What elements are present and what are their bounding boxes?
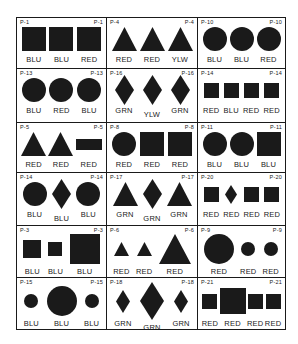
diamond-icon <box>225 185 237 204</box>
color-label: RED <box>81 55 97 64</box>
color-label: GRN <box>170 210 187 219</box>
cell-id-right: P-21 <box>270 279 282 285</box>
color-label: BLU <box>207 55 222 64</box>
shape-item: BLU <box>49 26 73 64</box>
color-label: RED <box>265 319 281 328</box>
color-label: RED <box>243 106 259 115</box>
color-label: YLW <box>172 55 188 64</box>
cell-id-left: P-14 <box>20 174 32 180</box>
shape-item: BLU <box>22 26 46 64</box>
color-label: BLU <box>234 160 249 169</box>
triangle-icon <box>114 242 129 256</box>
color-label: RED <box>136 267 152 276</box>
pattern-cell: P-3P-3BLUBLUBLU <box>17 226 107 278</box>
color-label: RED <box>243 210 259 219</box>
pattern-cell: P-11P-11BLUBLUBLU <box>198 123 285 173</box>
square-icon <box>220 288 246 314</box>
color-label: BLU <box>54 319 69 328</box>
square-icon <box>202 294 217 309</box>
color-label: RED <box>25 160 41 169</box>
square-icon <box>48 242 62 256</box>
color-label: BLU <box>207 160 222 169</box>
shape-row: REDREDRED <box>107 131 197 170</box>
cell-id-left: P-6 <box>110 227 119 233</box>
color-label: RED <box>144 55 160 64</box>
shape-item: BLU <box>230 26 254 64</box>
color-label: RED <box>263 106 279 115</box>
shape-item: RED <box>48 131 73 169</box>
shape-row: BLUBLURED <box>17 26 106 66</box>
circle-icon <box>264 242 278 256</box>
pattern-cell: P-1P-1BLUBLURED <box>17 18 107 69</box>
cell-id-right: P-4 <box>185 19 194 25</box>
cell-id-right: P-11 <box>270 124 282 130</box>
color-label: GRN <box>143 214 160 223</box>
shape-item: BLU <box>52 181 71 223</box>
pattern-cell: P-6P-6REDREDRED <box>107 226 198 278</box>
shape-item: RED <box>159 234 191 276</box>
circle-icon <box>241 242 255 256</box>
shape-row: BLUBLUBLU <box>17 181 106 223</box>
shape-item: RED <box>243 181 259 219</box>
square-icon <box>204 187 219 202</box>
color-label: BLU <box>26 106 41 115</box>
color-label: RED <box>116 55 132 64</box>
shape-item: YLW <box>168 26 193 64</box>
shape-item: RED <box>257 26 281 64</box>
pattern-cell: P-21P-21REDREDREDRED <box>198 278 285 329</box>
shape-item: GRN <box>114 286 131 328</box>
rectangle-icon <box>76 139 102 150</box>
pattern-cell: P-20P-20REDREDREDRED <box>198 173 285 226</box>
cell-id-left: P-15 <box>20 279 32 285</box>
circle-icon <box>77 78 101 102</box>
color-label: GRN <box>114 319 131 328</box>
cell-id-right: P-14 <box>91 174 103 180</box>
square-icon <box>264 83 279 98</box>
color-label: BLU <box>54 214 69 223</box>
shape-item: BLU <box>230 131 254 169</box>
cell-id-right: P-9 <box>273 227 282 233</box>
triangle-icon <box>112 27 137 51</box>
color-label: BLU <box>81 210 96 219</box>
shape-item: GRN <box>143 181 162 223</box>
color-label: BLU <box>25 267 40 276</box>
shape-item: BLU <box>47 286 77 328</box>
color-label: RED <box>203 106 219 115</box>
cell-id-right: P-13 <box>91 70 103 76</box>
color-label: GRN <box>171 106 188 115</box>
cell-id-left: P-14 <box>201 70 213 76</box>
pattern-cell: P-15P-15BLUBLUBLU <box>17 278 107 329</box>
triangle-icon <box>167 182 192 206</box>
cell-id-right: P-18 <box>182 279 194 285</box>
cell-id-left: P-4 <box>110 19 119 25</box>
color-label: RED <box>264 210 280 219</box>
shape-item: RED <box>263 77 279 115</box>
cell-id-right: P-8 <box>185 124 194 130</box>
shape-row: GRNGRNGRN <box>107 286 197 327</box>
shape-row: REDREDREDRED <box>198 286 285 327</box>
shape-row: REDREDRED <box>198 234 285 275</box>
cell-id-left: P-3 <box>20 227 29 233</box>
pattern-grid: P-1P-1BLUBLUREDP-4P-4REDREDYLWP-10P-10BL… <box>16 17 286 330</box>
cell-id-left: P-21 <box>201 279 213 285</box>
square-icon <box>49 27 73 51</box>
shape-item: GRN <box>140 286 164 332</box>
diamond-icon <box>174 290 188 313</box>
shape-item: BLU <box>76 181 100 219</box>
cell-id-right: P-17 <box>182 174 194 180</box>
color-label: YLW <box>144 110 160 119</box>
cell-id-right: P-5 <box>94 124 103 130</box>
cell-id-right: P-3 <box>94 227 103 233</box>
shape-item: RED <box>240 234 256 276</box>
triangle-icon <box>168 27 193 51</box>
cell-id-left: P-1 <box>20 19 29 25</box>
cell-id-left: P-11 <box>201 124 213 130</box>
shape-item: RED <box>76 131 102 169</box>
triangle-icon <box>140 27 165 51</box>
color-label: RED <box>53 160 69 169</box>
shape-item: GRN <box>171 77 190 115</box>
color-label: RED <box>203 210 219 219</box>
shape-item: RED <box>168 131 192 169</box>
circle-icon <box>47 286 77 316</box>
shape-row: GRNGRNGRN <box>107 181 197 223</box>
